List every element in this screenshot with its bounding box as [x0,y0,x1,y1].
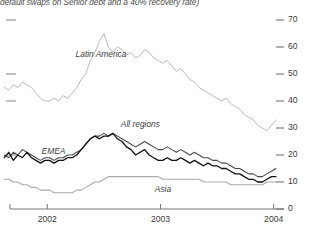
chart-container: default swaps on Senior debt and a 40% r… [0,0,311,236]
series-annotation-all-regions: All regions [121,119,160,129]
y-tick-label: 30 [288,122,298,132]
y-tick-label: 50 [288,68,298,78]
y-tick-label: 0 [288,203,293,213]
y-tick-label: 20 [288,149,298,159]
series-line-latin-america [4,34,276,131]
y-tick-label: 40 [288,95,298,105]
y-tick-label: 10 [288,176,298,186]
x-tick-label: 2002 [31,214,63,224]
y-tick-label: 60 [288,41,298,51]
series-annotation-asia: Asia [155,184,171,194]
y-tick-label: 70 [288,14,298,24]
series-annotation-latin-america: Latin America [76,49,127,59]
series-line-asia [4,177,276,193]
series-annotation-emea: EMEA [42,146,66,156]
x-tick-label: 2003 [144,214,176,224]
x-tick-label: 2004 [258,214,290,224]
line-chart-plot [0,0,311,236]
